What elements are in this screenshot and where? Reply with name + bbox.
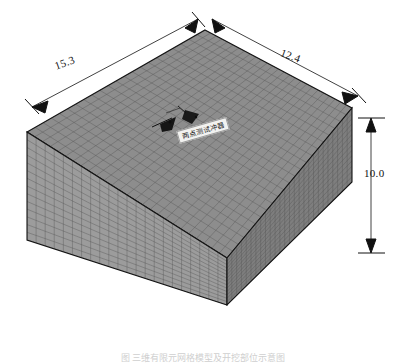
figure-caption: 图 三维有限元网格模型及开挖部位示意图: [0, 351, 406, 364]
dimension-label-height: 10.0: [364, 167, 384, 179]
dimension-height: [358, 118, 385, 253]
